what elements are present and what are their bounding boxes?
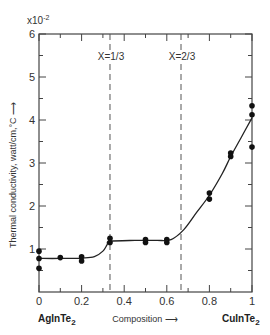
axis-ticks: 00.20.40.60.81123456 bbox=[29, 28, 255, 307]
plot-frame bbox=[39, 34, 252, 292]
data-point bbox=[249, 144, 255, 150]
annotation-lines: X=1/3X=2/3 bbox=[98, 34, 196, 292]
composition-marker-label: X=2/3 bbox=[169, 51, 196, 62]
x-tick-label: 1 bbox=[249, 295, 255, 307]
y-tick-label: 3 bbox=[29, 157, 35, 169]
data-point bbox=[207, 196, 213, 202]
y-tick-label: 5 bbox=[29, 71, 35, 83]
plot-border bbox=[39, 34, 252, 292]
y-multiplier-label: x10-2 bbox=[27, 14, 49, 26]
data-points bbox=[36, 103, 255, 271]
data-point bbox=[107, 240, 113, 246]
data-point bbox=[36, 256, 42, 262]
x-axis-title: Composition ⟶ bbox=[112, 314, 178, 324]
y-tick-label: 1 bbox=[29, 243, 35, 255]
x-tick-label: 0.4 bbox=[117, 295, 132, 307]
data-point bbox=[164, 240, 170, 246]
y-tick-label: 2 bbox=[29, 200, 35, 212]
x-tick-label: 0.6 bbox=[159, 295, 174, 307]
data-point bbox=[207, 190, 213, 196]
data-point bbox=[36, 266, 42, 272]
y-tick-label: 6 bbox=[29, 28, 35, 40]
x-tick-label: 0.8 bbox=[202, 295, 217, 307]
axis-labels: x10-2 Thermal conductivity, watt/cm,°C ⟶… bbox=[8, 14, 260, 327]
data-point bbox=[143, 240, 149, 246]
data-point bbox=[79, 258, 85, 264]
y-tick-label: 4 bbox=[29, 114, 35, 126]
y-axis-title: Thermal conductivity, watt/cm,°C ⟶ bbox=[8, 102, 18, 248]
data-point bbox=[228, 154, 234, 160]
data-point bbox=[249, 112, 255, 118]
data-point bbox=[58, 255, 64, 261]
composition-marker-label: X=1/3 bbox=[98, 51, 125, 62]
x-tick-label: 0 bbox=[36, 295, 42, 307]
thermal-conductivity-chart: 00.20.40.60.81123456 X=1/3X=2/3 x10-2 Th… bbox=[0, 0, 270, 335]
data-point bbox=[249, 103, 255, 109]
right-compound-label: CuInTe2 bbox=[222, 313, 260, 327]
left-compound-label: AgInTe2 bbox=[38, 313, 76, 327]
x-tick-label: 0.2 bbox=[74, 295, 89, 307]
data-point bbox=[36, 248, 42, 254]
